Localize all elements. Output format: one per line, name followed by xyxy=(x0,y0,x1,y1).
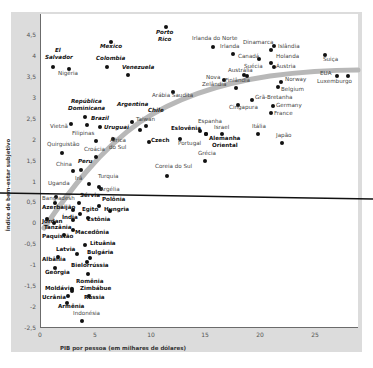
overlay-line-layer xyxy=(0,0,373,368)
horizontal-overlay-line xyxy=(0,193,373,199)
